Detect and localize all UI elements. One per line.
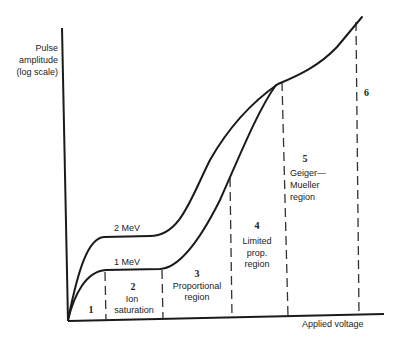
region-5-label-line-1: Geiger—: [290, 168, 326, 178]
region-4-label-line-3: region: [244, 259, 269, 269]
divider-4-5: [282, 82, 288, 316]
region-4-number: 4: [255, 220, 260, 231]
region-3-label-line-1: Proportional: [173, 281, 222, 291]
region-5-label-line-3: region: [290, 192, 315, 202]
region-2-number: 2: [131, 281, 136, 292]
divider-3-4: [230, 178, 232, 317]
region-3-number: 3: [195, 268, 200, 279]
region-5-label-line-2: Mueller: [290, 180, 320, 190]
divider-1-2: [105, 272, 106, 320]
y-axis-label-line-3: (log scale): [16, 67, 58, 77]
divider-2-3: [162, 270, 163, 319]
region-4-label-line-2: prop.: [247, 248, 268, 258]
y-axis-label-line-2: amplitude: [19, 55, 58, 65]
region-4-label-line-1: Limited: [242, 236, 271, 246]
region-5-number: 5: [303, 153, 308, 164]
x-axis-label: Applied voltage: [302, 319, 364, 329]
region-3-label-line-2: region: [184, 292, 209, 302]
region-1-number: 1: [89, 304, 94, 315]
y-axis-label-line-1: Pulse: [35, 43, 58, 53]
curve-label-2-mev: 2 MeV: [114, 223, 140, 233]
region-2-label-line-1: Ion: [126, 294, 139, 304]
divider-5-6: [356, 22, 359, 314]
region-6-number: 6: [364, 87, 369, 98]
curve-label-1-mev: 1 MeV: [114, 257, 140, 267]
region-2-label-line-2: saturation: [114, 305, 154, 315]
y-axis: [62, 28, 68, 321]
gas-detector-regions-diagram: Pulse amplitude (log scale) Applied volt…: [0, 0, 403, 339]
